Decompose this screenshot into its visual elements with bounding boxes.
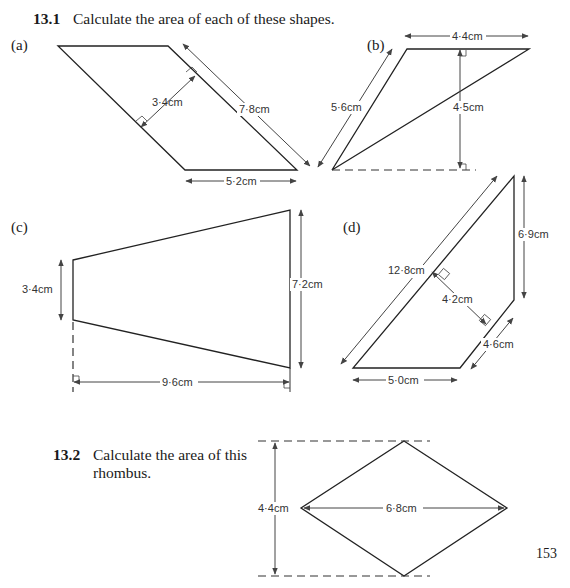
question-text-line2: rhombus.	[93, 464, 151, 481]
label-b-side: 5·6cm	[331, 101, 362, 113]
shape-a-parallelogram: 5·2cm 3·4cm 7·8cm	[58, 44, 310, 187]
figures-canvas: 5·2cm 3·4cm 7·8cm 4·4cm 5·6cm 4·5cm	[0, 0, 570, 588]
label-d-base: 5·0cm	[388, 374, 419, 386]
label-a-side: 7·8cm	[239, 103, 270, 115]
page-number: 153	[536, 546, 557, 562]
question-text-line1: Calculate the area of this	[93, 446, 247, 463]
label-c-width: 9·6cm	[162, 376, 193, 388]
label-b-height: 4·5cm	[453, 101, 484, 113]
textbook-page: 13.1Calculate the area of each of these …	[0, 0, 570, 588]
label-d-vertical: 6·9cm	[518, 228, 549, 240]
label-a-base: 5·2cm	[226, 175, 257, 187]
shape-d-trapezium: 12·8cm 6·9cm 4·2cm 4·6cm 5·0cm	[341, 176, 558, 386]
label-d-short-side: 4·6cm	[483, 338, 514, 350]
label-c-left: 3·4cm	[22, 283, 53, 295]
shape-c-trapezium: 3·4cm 7·2cm 9·6cm	[22, 210, 328, 392]
question-13-2-heading: 13.2Calculate the area of this rhombus.	[53, 446, 247, 482]
question-number: 13.2	[53, 446, 93, 464]
label-rhombus-height: 4·4cm	[258, 502, 289, 514]
shape-b-triangle: 4·4cm 5·6cm 4·5cm	[318, 29, 529, 170]
rhombus-figure: 4·4cm 6·8cm	[256, 441, 507, 576]
label-b-top: 4·4cm	[452, 30, 483, 42]
label-d-long-side: 12·8cm	[388, 264, 425, 276]
label-rhombus-width: 6·8cm	[386, 502, 417, 514]
label-c-right: 7·2cm	[292, 278, 323, 290]
label-d-perpendicular: 4·2cm	[442, 293, 473, 305]
label-a-height: 3·4cm	[152, 96, 183, 108]
